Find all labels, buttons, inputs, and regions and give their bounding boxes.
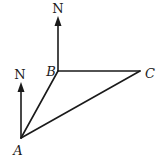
north-label-b: N (52, 1, 63, 16)
bearing-diagram: N N B C A (0, 0, 162, 167)
north-arrow-a-head-icon (18, 82, 25, 92)
point-label-a: A (12, 143, 22, 158)
north-arrow-b-head-icon (55, 16, 62, 26)
point-label-b: B (45, 64, 56, 79)
point-label-c: C (145, 66, 155, 81)
north-label-a: N (14, 67, 25, 82)
